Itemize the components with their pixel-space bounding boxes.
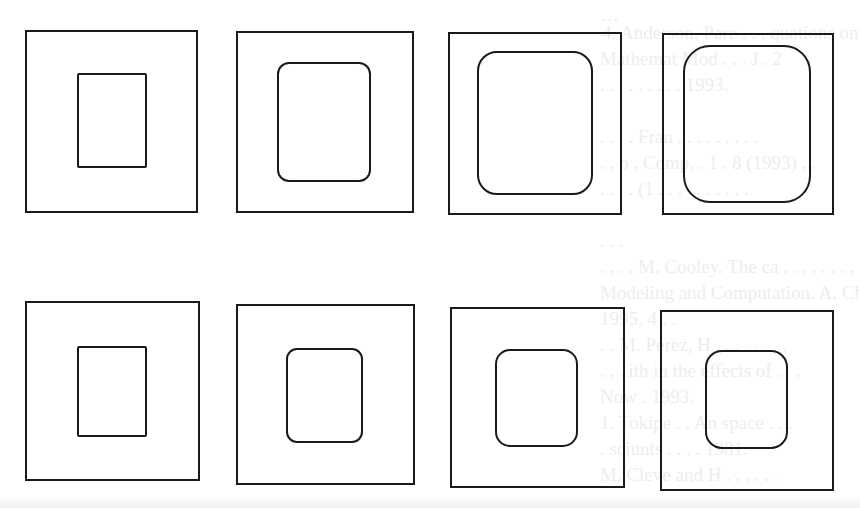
outer-square	[237, 305, 414, 484]
panel-8	[661, 311, 833, 490]
outer-square	[661, 311, 833, 490]
inner-rounded-rect	[496, 350, 577, 446]
top-row	[26, 31, 833, 214]
inner-rounded-rect	[706, 351, 787, 448]
panel-5	[26, 302, 199, 480]
panel-6	[237, 305, 414, 484]
panel-7	[451, 308, 624, 487]
panel-4	[663, 34, 833, 214]
panel-2	[237, 32, 413, 212]
outer-square	[26, 302, 199, 480]
inner-rounded-rect	[278, 63, 370, 181]
inner-rounded-rect	[287, 349, 362, 442]
outer-square	[451, 308, 624, 487]
inner-rounded-rect	[478, 52, 592, 194]
outer-square	[26, 31, 197, 212]
panel-1	[26, 31, 197, 212]
inner-rounded-rect	[78, 347, 146, 436]
inner-rounded-rect	[78, 74, 146, 167]
figure-diagram	[0, 0, 860, 508]
panel-3	[449, 33, 621, 214]
outer-square	[237, 32, 413, 212]
bottom-row	[26, 302, 833, 490]
scan-edge	[0, 496, 860, 508]
outer-square	[449, 33, 621, 214]
inner-rounded-rect	[684, 46, 810, 202]
